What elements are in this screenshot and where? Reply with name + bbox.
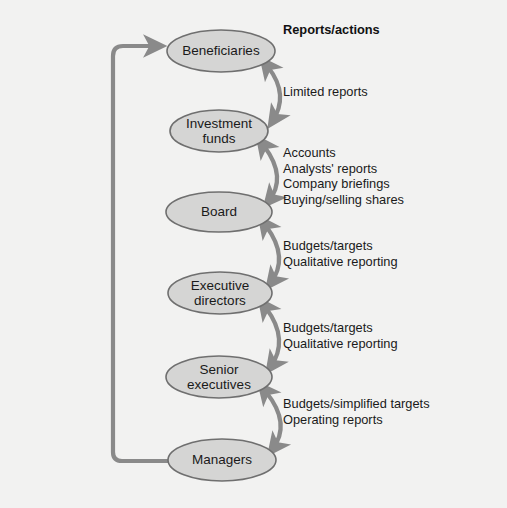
diagram-svg	[0, 0, 507, 508]
node-beneficiaries[interactable]	[167, 30, 275, 72]
edge-label-investment-funds-board: Accounts Analysts' reports Company brief…	[283, 145, 404, 207]
edge-label-board-executive-directors: Budgets/targets Qualitative reporting	[283, 238, 398, 269]
node-investment-funds[interactable]	[170, 110, 268, 152]
node-senior-executives[interactable]	[166, 356, 272, 398]
edge-label-executive-directors-senior-executives: Budgets/targets Qualitative reporting	[283, 320, 398, 351]
diagram-canvas: Reports/actions Beneficiaries Investment…	[0, 0, 507, 508]
edge-label-senior-executives-managers: Budgets/simplified targets Operating rep…	[283, 396, 430, 427]
connector-board-executive-directors	[266, 226, 279, 284]
connector-beneficiaries-investment-funds	[268, 67, 280, 122]
reports-actions-header: Reports/actions	[283, 22, 380, 37]
feedback-connector-managers-to-beneficiaries	[113, 46, 168, 461]
node-board[interactable]	[166, 192, 272, 232]
edge-label-limited-reports: Limited reports	[283, 84, 368, 100]
connector-executive-directors-senior-executives	[266, 308, 279, 368]
connector-investment-funds-board	[264, 146, 277, 202]
node-managers[interactable]	[168, 439, 276, 481]
node-executive-directors[interactable]	[168, 272, 272, 314]
connector-senior-executives-managers	[266, 392, 281, 450]
